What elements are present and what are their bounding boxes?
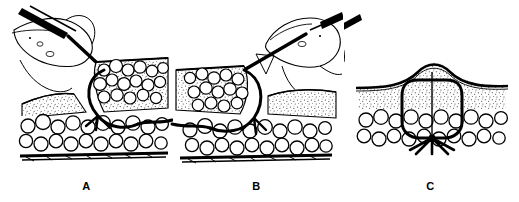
panel-label-a: A: [0, 180, 173, 192]
subcutaneous-fat-layer: [180, 119, 332, 155]
surgical-technique-figure: A: [0, 0, 519, 202]
panel-c-illustration: [344, 0, 517, 180]
panel-a: A: [0, 0, 173, 202]
deep-fascia-band: [180, 155, 332, 163]
panel-label-b: B: [170, 180, 343, 192]
panel-b: B: [170, 0, 343, 202]
adjacent-instrument-tip: [344, 14, 362, 62]
panel-b-illustration: [170, 0, 343, 180]
panel-label-c: C: [344, 180, 517, 192]
dermis-layer-left: [22, 93, 86, 118]
wound-edge-fat: [184, 68, 248, 112]
panel-a-illustration: [0, 0, 173, 180]
surgeon-hand: [256, 18, 342, 98]
dermis-layer-right: [268, 90, 336, 118]
deep-fascia-band: [20, 153, 168, 161]
panel-c: C: [344, 0, 517, 202]
